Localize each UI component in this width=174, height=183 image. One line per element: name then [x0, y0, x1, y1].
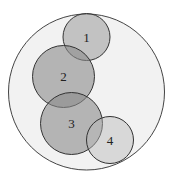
circle-label-3: 3 [68, 116, 75, 131]
circle-diagram: 1234 [0, 0, 174, 183]
circle-label-4: 4 [107, 133, 114, 148]
circle-label-2: 2 [60, 69, 67, 84]
circle-label-1: 1 [83, 30, 90, 45]
